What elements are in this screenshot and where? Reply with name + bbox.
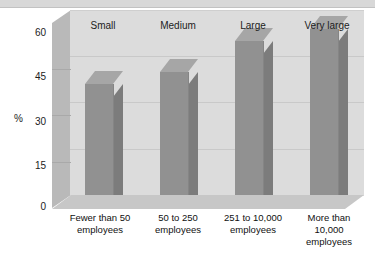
top-border-band-edge — [0, 7, 375, 8]
floor-3d — [52, 195, 364, 209]
y-tick-label-30: 30 — [20, 117, 46, 127]
category-axis-label-more-than-10000-line3: employees — [281, 236, 375, 248]
category-top-label-small: Small — [68, 20, 138, 32]
y-tick-label-15: 15 — [20, 161, 46, 171]
bar-small-front-face — [85, 84, 114, 195]
bar-small-side-face — [113, 84, 123, 195]
y-tick-label-60: 60 — [20, 28, 46, 38]
category-axis-label-more-than-10000-line1: More than — [281, 212, 375, 224]
gridstub-15 — [52, 149, 71, 163]
category-top-label-very-large: Very large — [288, 20, 366, 32]
category-top-label-large: Large — [218, 20, 288, 32]
bar-very-large-side-face — [338, 29, 348, 195]
bar-medium-front-face — [160, 72, 189, 195]
bar-large-front-face — [235, 41, 264, 195]
y-axis-label: % — [14, 113, 23, 124]
category-axis-label-more-than-10000: More than 10,000 employees — [281, 212, 375, 248]
bar-very-large-front-face — [310, 29, 339, 195]
category-top-label-medium: Medium — [140, 20, 216, 32]
category-axis-label-more-than-10000-line2: 10,000 — [281, 224, 375, 236]
top-border-band — [0, 0, 375, 7]
plot-area — [52, 10, 364, 210]
bar-large-side-face — [263, 41, 273, 195]
y-tick-label-0: 0 — [20, 202, 46, 212]
gridstub-30 — [52, 102, 71, 116]
gridstub-45 — [52, 56, 71, 70]
chart-figure: 60 45 30 15 0 % — [0, 0, 375, 254]
bar-medium-side-face — [188, 72, 198, 195]
y-tick-label-45: 45 — [20, 72, 46, 82]
